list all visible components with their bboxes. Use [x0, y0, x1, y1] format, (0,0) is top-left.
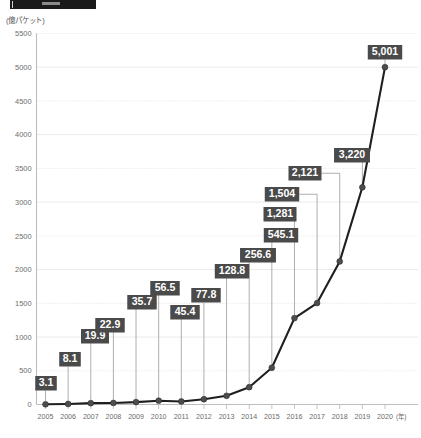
- data-point-marker: [292, 315, 298, 321]
- data-value-label: 22.9: [95, 318, 124, 333]
- data-point-marker: [382, 64, 388, 70]
- data-label-leader: [81, 336, 91, 400]
- x-axis-tick-label: 2018: [332, 413, 348, 421]
- y-axis-tick-label: 1500: [15, 299, 31, 308]
- data-value-label: 5,001: [368, 45, 402, 60]
- data-label-leader: [322, 173, 340, 258]
- y-axis-tick-label: 0: [27, 400, 31, 409]
- x-axis-tick-label: 2005: [38, 413, 54, 421]
- data-value-label-text: 8.1: [63, 352, 78, 364]
- data-value-label: 1,281: [264, 207, 297, 222]
- data-label-leader: [113, 325, 124, 400]
- data-point-marker: [224, 393, 230, 399]
- data-point-marker: [359, 184, 365, 190]
- data-value-label-text: 1,281: [267, 207, 294, 219]
- x-axis-tick-label: 2006: [60, 413, 76, 421]
- data-point-marker: [88, 400, 94, 406]
- data-value-label-text: 3.1: [39, 376, 54, 388]
- data-value-label-text: 22.9: [100, 318, 121, 330]
- x-axis-tick-label: 2016: [287, 413, 303, 421]
- data-value-label-text: 1,504: [269, 187, 296, 199]
- data-value-label: 45.4: [170, 305, 199, 320]
- axis-lines: [37, 34, 419, 410]
- data-point-marker: [269, 365, 275, 371]
- x-axis-tick-label: 2013: [219, 413, 235, 421]
- data-value-label: 1,504: [265, 187, 299, 202]
- data-value-label-text: 2,121: [292, 166, 319, 178]
- data-point-marker: [43, 401, 49, 407]
- data-value-label: 8.1: [59, 352, 81, 367]
- data-value-label-text: 545.1: [268, 228, 295, 240]
- data-point-marker: [178, 399, 184, 405]
- data-point-marker: [133, 399, 139, 405]
- x-axis-tick-label: 2015: [264, 413, 280, 421]
- data-value-label-text: 3,220: [339, 148, 366, 160]
- y-axis-tick-label: 500: [19, 366, 31, 375]
- y-axis-tick-label: 2000: [15, 265, 31, 274]
- data-value-label-text: 5,001: [372, 45, 399, 57]
- x-axis-tick-label: 2011: [174, 413, 189, 421]
- data-label-leader: [127, 302, 136, 399]
- data-value-labels: 3.18.119.922.935.756.545.477.8128.8256.6…: [35, 45, 402, 391]
- y-axis-tick-label: 5000: [15, 63, 31, 72]
- data-point-marker: [156, 398, 162, 404]
- x-axis-tick-label: 2014: [241, 413, 257, 421]
- data-value-label: 3.1: [35, 376, 57, 391]
- x-axis-tick-label: 2007: [83, 413, 99, 421]
- x-axis-tick-label: 2008: [106, 413, 122, 421]
- data-value-label-text: 45.4: [175, 305, 196, 317]
- data-value-label-text: 35.7: [132, 295, 153, 307]
- data-point-marker: [111, 400, 117, 406]
- y-axis-tick-label: 5500: [15, 29, 31, 38]
- x-axis-unit-label: (年): [396, 412, 406, 421]
- x-axis-tick-label: 2017: [309, 413, 325, 421]
- data-value-label: 3,220: [334, 148, 370, 163]
- x-axis-tick-label: 2010: [151, 413, 167, 421]
- data-value-label-text: 128.8: [219, 264, 246, 276]
- x-axis-tick-label: 2012: [196, 413, 212, 421]
- y-axis-tick-label: 1000: [15, 333, 31, 342]
- data-value-label: 545.1: [264, 228, 298, 243]
- x-axis-tick-label: 2019: [354, 413, 370, 421]
- chart-container: (億パケット) 05001000150020002500300035004000…: [0, 0, 421, 438]
- data-value-label: 2,121: [289, 166, 322, 181]
- data-point-marker: [201, 396, 207, 402]
- data-point-marker: [246, 384, 252, 390]
- data-value-label-text: 256.6: [245, 248, 272, 260]
- data-value-label-text: 77.8: [196, 288, 217, 300]
- data-label-leader: [299, 194, 317, 300]
- data-value-label: 35.7: [127, 295, 156, 310]
- y-axis-tick-label: 3000: [15, 198, 31, 207]
- data-value-label: 77.8: [191, 288, 220, 303]
- y-axis-tick-label: 4000: [15, 130, 31, 139]
- y-axis-tick-label: 4500: [15, 97, 31, 106]
- data-label-leader-lines: [46, 60, 386, 402]
- data-value-label: 56.5: [150, 281, 179, 296]
- x-axis-tick-label: 2020: [377, 413, 393, 421]
- data-point-marker: [337, 259, 343, 265]
- data-value-label-text: 56.5: [155, 281, 176, 293]
- line-chart-plot: 0500100015002000250030003500400045005000…: [0, 0, 421, 438]
- data-label-leader: [170, 312, 181, 398]
- y-axis-tick-labels: 0500100015002000250030003500400045005000…: [15, 29, 31, 409]
- x-axis-tick-labels: 2005200620072008200920102011201220132014…: [38, 412, 407, 421]
- data-point-marker: [65, 401, 71, 407]
- x-axis-tick-label: 2009: [128, 413, 144, 421]
- data-point-marker: [314, 300, 320, 306]
- y-axis-tick-label: 3500: [15, 164, 31, 173]
- grid-lines: [37, 34, 419, 371]
- y-axis-tick-label: 2500: [15, 232, 31, 241]
- data-value-label: 128.8: [215, 264, 249, 279]
- data-value-label: 256.6: [240, 248, 276, 263]
